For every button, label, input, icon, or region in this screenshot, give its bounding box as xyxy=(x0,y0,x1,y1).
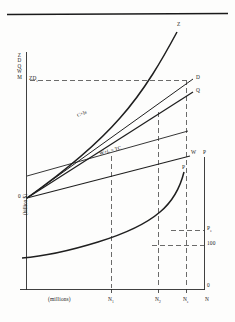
p-axis-name-label: P xyxy=(203,150,206,155)
level-label-zde-sub: e xyxy=(37,79,39,83)
level-label-zde-text: ZD xyxy=(29,75,37,81)
curve-d xyxy=(27,79,193,198)
y-axis-stack-item-m: M xyxy=(17,75,22,80)
curve-p xyxy=(22,172,184,258)
y-axis-unit-label: (billion $) xyxy=(22,194,28,215)
curve-z xyxy=(27,32,177,198)
curve-label-w: W xyxy=(191,150,196,155)
x-tick-label-n2: N2 xyxy=(155,297,161,305)
origin-label: 0 xyxy=(18,194,21,199)
level-label-p100: 100 xyxy=(207,241,216,246)
x-tick-label-ne: Ne xyxy=(183,297,189,305)
curve-label-d: D xyxy=(196,75,200,80)
top-rule xyxy=(7,14,228,15)
level-label-pe: Pe xyxy=(207,226,212,234)
chart-canvas xyxy=(0,0,235,322)
x-tick-label-ne-sub: e xyxy=(187,300,189,304)
p-axis-origin-label: 0 xyxy=(207,283,210,288)
figure-container: Z D Q W M ZDe (billion $) 0 Z D Q W P P … xyxy=(0,0,235,322)
curve-label-z: Z xyxy=(177,22,180,27)
curve-w xyxy=(27,156,190,198)
level-label-pe-sub: e xyxy=(210,229,212,233)
x-tick-label-n1-sub: 1 xyxy=(112,300,114,304)
curve-label-p: P xyxy=(182,165,185,170)
y-axis-stack: Z D Q W M xyxy=(17,53,22,80)
x-tick-label-n1: N1 xyxy=(108,297,114,305)
x-tick-label-n2-sub: 2 xyxy=(159,300,161,304)
curve-label-q: Q xyxy=(196,88,200,93)
curve-q xyxy=(27,92,193,198)
level-label-zde: ZDe xyxy=(29,76,38,84)
x-axis-unit-label: (millions) xyxy=(48,297,71,302)
x-axis-name-label: N xyxy=(205,297,209,302)
